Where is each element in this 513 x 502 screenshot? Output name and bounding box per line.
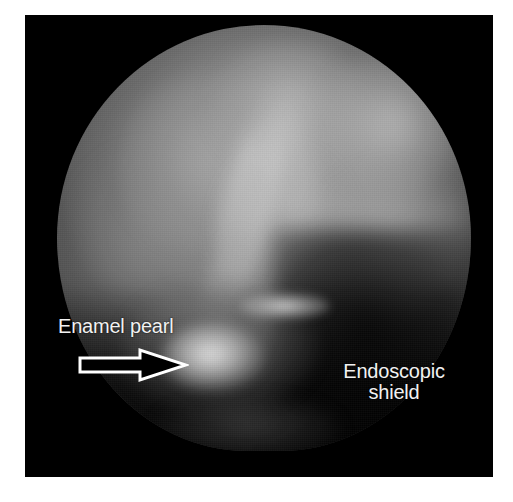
- enamel-pearl-streak: [239, 293, 330, 319]
- arrow-right-outline-icon: [77, 347, 189, 383]
- tissue-blob-upper-left: [115, 76, 297, 246]
- tissue-blob-left: [74, 153, 215, 332]
- tissue-blob-mid-right: [314, 170, 471, 315]
- tissue-groove-highlight-1: [200, 98, 300, 301]
- lower-tissue-glow: [156, 400, 338, 451]
- label-endoscopic-shield-line1: Endoscopic: [343, 360, 444, 382]
- tissue-blob-upper-right: [322, 51, 463, 196]
- label-endoscopic-shield: Endoscopic shield: [335, 361, 453, 403]
- figure-root: Enamel pearl Endoscopic shield: [0, 0, 513, 502]
- label-endoscopic-shield-line2: shield: [335, 382, 453, 403]
- label-enamel-pearl: Enamel pearl: [58, 316, 173, 337]
- endoscopic-photo-frame: Enamel pearl Endoscopic shield: [25, 15, 493, 477]
- tissue-groove-highlight-3: [187, 226, 267, 344]
- tissue-blob-mid-center: [223, 153, 347, 298]
- shield-shadow-region: [272, 229, 471, 451]
- tissue-groove-highlight-2: [259, 82, 327, 257]
- tissue-blob-upper-mid: [214, 42, 363, 170]
- cropped-caption-fragment: [30, 489, 250, 502]
